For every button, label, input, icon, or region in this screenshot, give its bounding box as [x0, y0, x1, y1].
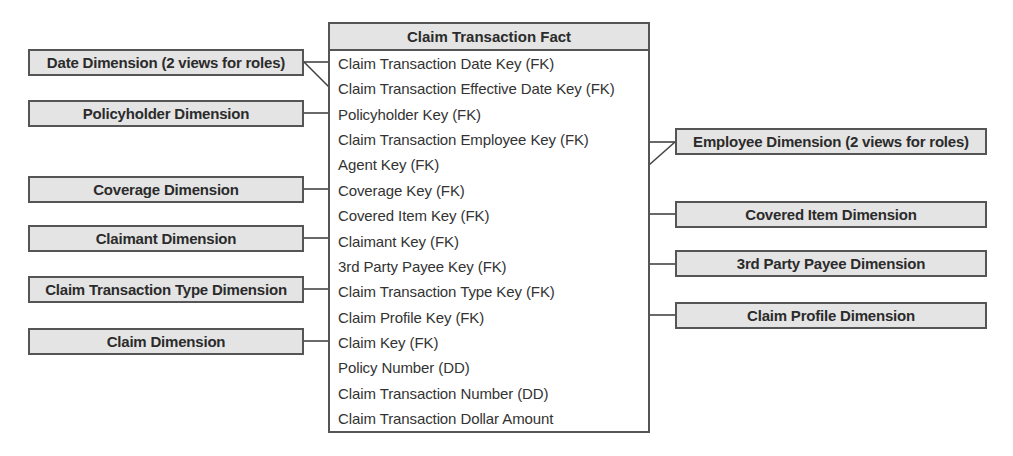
dimension-date: Date Dimension (2 views for roles): [28, 49, 304, 76]
dimension-coverage: Coverage Dimension: [28, 176, 304, 203]
fact-column: Claim Transaction Employee Key (FK): [338, 131, 589, 149]
connector-agent-key: [649, 142, 675, 165]
dimension-claim-transaction-type: Claim Transaction Type Dimension: [28, 276, 304, 303]
fact-column: Agent Key (FK): [338, 156, 439, 174]
dimension-claim: Claim Dimension: [28, 328, 304, 355]
fact-table-claim-transaction: Claim Transaction Fact Claim Transaction…: [328, 22, 650, 433]
dimension-claimant: Claimant Dimension: [28, 225, 304, 252]
fact-column: 3rd Party Payee Key (FK): [338, 258, 507, 276]
fact-column: Policy Number (DD): [338, 359, 470, 377]
dimension-policyholder: Policyholder Dimension: [28, 100, 304, 127]
fact-column: Policyholder Key (FK): [338, 106, 481, 124]
fact-column: Claimant Key (FK): [338, 233, 459, 251]
fact-column: Claim Transaction Type Key (FK): [338, 283, 555, 301]
connector-effective-date-key: [304, 62, 329, 87]
fact-column: Claim Transaction Date Key (FK): [338, 55, 554, 73]
fact-column: Claim Profile Key (FK): [338, 309, 484, 327]
dimension-covered-item: Covered Item Dimension: [675, 201, 987, 228]
fact-table-title: Claim Transaction Fact: [330, 24, 648, 51]
fact-column: Claim Transaction Number (DD): [338, 385, 548, 403]
fact-column: Claim Transaction Dollar Amount: [338, 410, 553, 428]
fact-column: Covered Item Key (FK): [338, 207, 489, 225]
dimension-3rd-party-payee: 3rd Party Payee Dimension: [675, 250, 987, 277]
dimension-employee: Employee Dimension (2 views for roles): [675, 128, 987, 155]
fact-column: Claim Transaction Effective Date Key (FK…: [338, 80, 615, 98]
fact-column: Coverage Key (FK): [338, 182, 465, 200]
fact-column: Claim Key (FK): [338, 334, 438, 352]
dimension-claim-profile: Claim Profile Dimension: [675, 302, 987, 329]
